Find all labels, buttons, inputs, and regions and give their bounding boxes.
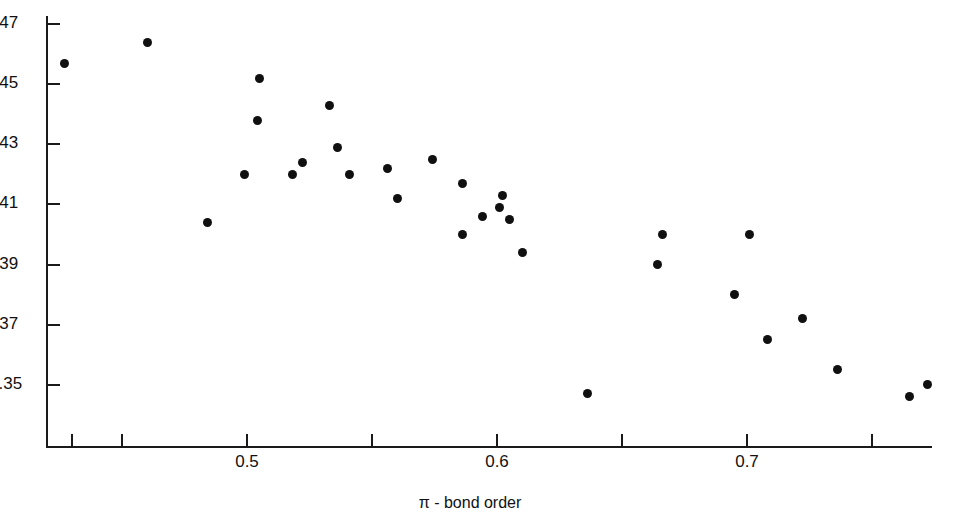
data-point bbox=[495, 203, 504, 212]
data-point bbox=[798, 314, 807, 323]
x-axis-title: π - bond order bbox=[0, 494, 966, 512]
y-axis-tick-label-text: 1.39 bbox=[0, 254, 18, 274]
y-axis-tick-label: 1.35 bbox=[0, 374, 40, 394]
data-point bbox=[730, 290, 739, 299]
data-point bbox=[833, 365, 842, 374]
y-axis-tick-label-text: 1.47 bbox=[0, 13, 18, 33]
y-axis-tick-label-text: 1.35 bbox=[0, 374, 22, 394]
data-point bbox=[255, 74, 264, 83]
y-axis-tick-label: 1.45 bbox=[0, 73, 40, 93]
data-point bbox=[298, 158, 307, 167]
data-point bbox=[923, 380, 932, 389]
y-axis-tick-label-text: 1.37 bbox=[0, 314, 18, 334]
data-point bbox=[458, 179, 467, 188]
data-point bbox=[505, 215, 514, 224]
data-point bbox=[498, 191, 507, 200]
data-point bbox=[653, 260, 662, 269]
data-point bbox=[333, 143, 342, 152]
y-axis-tick-label-text: 1.43 bbox=[0, 133, 18, 153]
y-axis-tick-label: 1.37 bbox=[0, 314, 40, 334]
x-axis-tick-label: 0.5 bbox=[217, 452, 277, 472]
y-axis-tick-label: 1.41 bbox=[0, 193, 40, 213]
data-point bbox=[763, 335, 772, 344]
data-point bbox=[478, 212, 487, 221]
data-point bbox=[518, 248, 527, 257]
data-point bbox=[428, 155, 437, 164]
scatter-plot-figure: 1.471.451.431.411.391.371.35 0.50.60.7 π… bbox=[0, 0, 966, 522]
data-point bbox=[60, 59, 69, 68]
y-axis-tick-label-text: 1.41 bbox=[0, 193, 18, 213]
data-point bbox=[393, 194, 402, 203]
data-point bbox=[345, 170, 354, 179]
data-point bbox=[325, 101, 334, 110]
x-axis-tick-label: 0.7 bbox=[717, 452, 777, 472]
x-axis-tick-label: 0.6 bbox=[467, 452, 527, 472]
data-point bbox=[253, 116, 262, 125]
y-axis-tick-label: 1.43 bbox=[0, 133, 40, 153]
data-point bbox=[745, 230, 754, 239]
data-point bbox=[203, 218, 212, 227]
data-point bbox=[458, 230, 467, 239]
data-point bbox=[383, 164, 392, 173]
y-axis-tick-label: 1.47 bbox=[0, 13, 40, 33]
y-axis-tick-label: 1.39 bbox=[0, 254, 40, 274]
x-axis-title-text: π - bond order bbox=[419, 494, 522, 512]
plot-area bbox=[46, 16, 930, 447]
data-point bbox=[143, 38, 152, 47]
data-point bbox=[288, 170, 297, 179]
y-axis-tick-label-text: 1.45 bbox=[0, 73, 18, 93]
data-point bbox=[583, 389, 592, 398]
data-point bbox=[658, 230, 667, 239]
data-point bbox=[905, 392, 914, 401]
data-point bbox=[240, 170, 249, 179]
